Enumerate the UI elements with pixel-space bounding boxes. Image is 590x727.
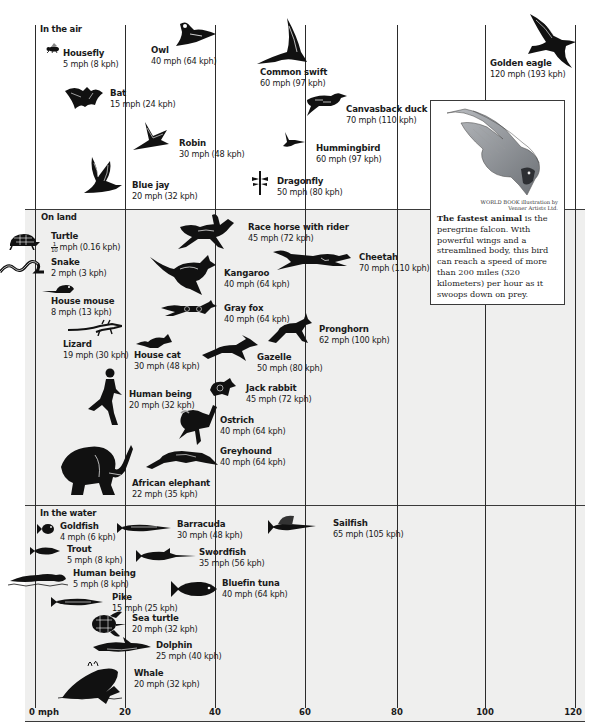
animal-housefly: Housefly5 mph (8 kph) (63, 48, 119, 69)
animal-house-mouse: House mouse8 mph (13 kph) (51, 296, 114, 317)
gray-fox-icon (161, 300, 217, 318)
cheetah-icon (273, 248, 353, 270)
axis-label-0: 0 mph (29, 707, 59, 717)
axis-label-60: 60 (299, 707, 311, 717)
gridline-80 (397, 25, 398, 708)
animal-african-elephant: African elephant22 mph (35 kph) (132, 478, 210, 499)
ostrich-icon (175, 405, 219, 445)
animal-kangaroo: Kangaroo40 mph (64 kph) (224, 268, 290, 289)
kangaroo-icon (150, 253, 216, 295)
animal-lizard: Lizard19 mph (30 kph) (63, 339, 129, 360)
peregrine-falcon-callout: WORLD BOOK illustration by Venner Artist… (430, 100, 565, 305)
whale-icon (58, 656, 126, 704)
section-title-water: In the water (40, 508, 96, 518)
animal-barracuda: Barracuda30 mph (48 kph) (177, 519, 243, 540)
animal-owl: Owl40 mph (64 kph) (151, 45, 217, 66)
jack-rabbit-icon (208, 378, 238, 398)
animal-dragonfly: Dragonfly50 mph (80 kph) (277, 176, 343, 197)
animal-bat: Bat15 mph (24 kph) (110, 88, 176, 109)
gazelle-icon (202, 335, 258, 361)
dolphin-icon (93, 637, 151, 655)
trout-icon (30, 545, 60, 557)
section-title-land: On land (41, 212, 77, 222)
canvasback-duck-icon (305, 90, 347, 116)
swordfish-icon (136, 548, 196, 564)
race-horse-icon (176, 213, 240, 251)
turtle-icon (4, 232, 40, 250)
animal-common-swift: Common swift60 mph (97 kph) (260, 67, 327, 88)
animal-cheetah: Cheetah70 mph (110 kph) (359, 252, 430, 273)
turtle-fraction: 110 (51, 242, 58, 253)
gridline-0 (35, 25, 36, 708)
section-title-air: In the air (40, 24, 82, 34)
animal-snake: Snake2 mph (3 kph) (51, 257, 107, 278)
animal-hummingbird: Hummingbird60 mph (97 kph) (316, 143, 382, 164)
animal-golden-eagle: Golden eagle120 mph (193 kph) (490, 58, 566, 79)
snake-icon (0, 258, 44, 278)
animal-turtle: Turtle 110mph (0.16 kph) (51, 231, 120, 253)
animal-trout: Trout5 mph (8 kph) (67, 544, 123, 565)
axis-label-120: 120 (564, 707, 582, 717)
greyhound-icon (146, 447, 218, 469)
pronghorn-icon (268, 313, 312, 345)
animal-race-horse-with-rider: Race horse with rider45 mph (72 kph) (248, 222, 349, 243)
animal-jack-rabbit: Jack rabbit45 mph (72 kph) (246, 383, 312, 404)
animal-human-being-water: Human being5 mph (8 kph) (73, 568, 136, 589)
animal-gazelle: Gazelle50 mph (80 kph) (257, 352, 323, 373)
axis-label-40: 40 (209, 707, 221, 717)
hummingbird-icon (281, 132, 305, 150)
barracuda-icon (117, 521, 171, 535)
axis-label-20: 20 (119, 707, 131, 717)
axis-label-80: 80 (391, 707, 403, 717)
axis-label-100: 100 (476, 707, 494, 717)
animal-blue-jay: Blue jay20 mph (32 kph) (132, 180, 198, 201)
animal-pronghorn: Pronghorn62 mph (100 kph) (319, 324, 390, 345)
dragonfly-icon (252, 171, 268, 195)
robin-icon (133, 122, 173, 152)
sea-turtle-icon (86, 610, 126, 638)
house-mouse-icon (42, 283, 74, 295)
lizard-icon (68, 318, 122, 336)
housefly-icon (44, 43, 60, 53)
animal-bluefin-tuna: Bluefin tuna40 mph (64 kph) (222, 578, 288, 599)
goldfish-icon (37, 522, 55, 536)
sailfish-icon (268, 514, 316, 536)
animal-dolphin: Dolphin25 mph (40 kph) (156, 640, 222, 661)
animal-robin: Robin30 mph (48 kph) (179, 138, 245, 159)
animal-ostrich: Ostrich40 mph (64 kph) (220, 415, 286, 436)
illustration-credit: WORLD BOOK illustration by Venner Artist… (438, 199, 558, 211)
african-elephant-icon (49, 443, 135, 497)
blue-jay-icon (82, 155, 124, 195)
gridline-120 (575, 25, 576, 708)
bat-icon (65, 83, 103, 113)
animal-goldfish: Goldfish4 mph (6 kph) (60, 521, 116, 542)
pike-icon (51, 596, 103, 608)
callout-text: The fastest animal is the peregrine falc… (437, 213, 561, 299)
house-cat-icon (136, 334, 172, 350)
animal-canvasback-duck: Canvasback duck70 mph (110 kph) (346, 104, 427, 125)
gridline-40 (215, 25, 216, 708)
animal-sailfish: Sailfish65 mph (105 kph) (333, 518, 404, 539)
callout-body: is the peregrine falcon. With powerful w… (437, 213, 548, 299)
callout-lead: The fastest animal (437, 213, 522, 223)
peregrine-falcon-icon (443, 107, 555, 199)
common-swift-icon (255, 18, 307, 64)
animal-swordfish: Swordfish35 mph (56 kph) (199, 547, 265, 568)
bluefin-tuna-icon (171, 579, 217, 599)
animal-whale: Whale20 mph (32 kph) (134, 668, 200, 689)
animal-house-cat: House cat30 mph (48 kph) (134, 350, 200, 371)
human-swimmer-icon (8, 571, 68, 587)
animal-greyhound: Greyhound40 mph (64 kph) (220, 446, 286, 467)
human-runner-icon (88, 367, 122, 431)
animal-sea-turtle: Sea turtle20 mph (32 kph) (132, 613, 198, 634)
